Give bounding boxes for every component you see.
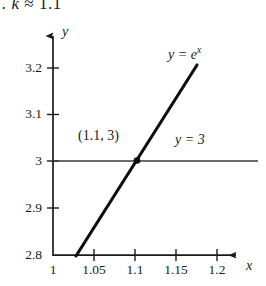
x-tick-label-1: 1 — [50, 262, 57, 278]
x-tick-label-1-1: 1.1 — [127, 262, 144, 278]
y-tick-label-3-1: 3.1 — [0, 106, 42, 122]
x-tick-label-1-05: 1.05 — [82, 262, 106, 278]
y-axis-label: y — [62, 24, 68, 40]
horizontal-line-label: y = 3 — [175, 132, 205, 148]
exponential-curve-label-base: y = e — [168, 47, 197, 62]
intersection-point-label: (1.1, 3) — [78, 128, 119, 144]
x-axis-label: x — [246, 258, 252, 274]
x-tick-label-1-15: 1.15 — [164, 262, 188, 278]
y-tick-label-3-2: 3.2 — [0, 60, 42, 76]
x-tick-label-1-2: 1.2 — [209, 262, 226, 278]
y-tick-label-3: 3 — [0, 153, 42, 169]
exponential-curve-label-exponent: x — [197, 45, 201, 55]
intersection-point-marker — [134, 157, 141, 164]
exponential-curve-label: y = ex — [168, 45, 201, 63]
y-tick-label-2-9: 2.9 — [0, 200, 42, 216]
exponential-intersection-figure: . k ≈ 1.1 — [0, 0, 266, 286]
plot-canvas — [0, 0, 266, 286]
y-tick-label-2-8: 2.8 — [0, 247, 42, 263]
